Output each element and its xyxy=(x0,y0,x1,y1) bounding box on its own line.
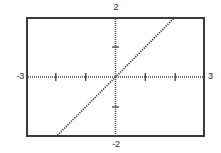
y-min-label: -2 xyxy=(104,140,128,149)
x-max-label: 3 xyxy=(208,72,221,81)
plot-figure: -3 3 2 -2 xyxy=(0,0,221,153)
x-min-label: -3 xyxy=(6,72,24,81)
y-max-label: 2 xyxy=(104,3,128,12)
plot-canvas xyxy=(26,17,205,137)
